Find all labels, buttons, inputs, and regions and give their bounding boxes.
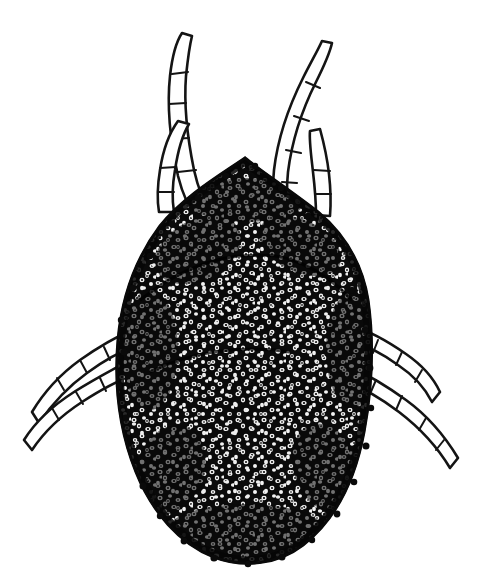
figure-root: Mite dorsal view line illustration mite … (0, 0, 489, 588)
mite-illustration (0, 0, 489, 588)
